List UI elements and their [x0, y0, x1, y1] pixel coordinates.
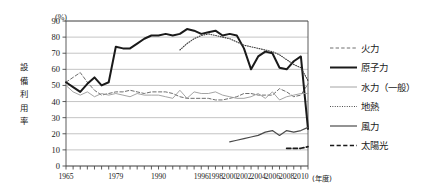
y-tick-label: 20 — [52, 129, 61, 139]
chart-legend: 火力原子力水力（一般）地熱風力太陽光 — [330, 43, 415, 152]
series-line-4 — [230, 127, 308, 142]
y-axis-title: 設備利用率 — [20, 62, 29, 126]
legend-label-2: 水力（一般） — [361, 82, 415, 93]
chart-container: 0102030405060708090 19651979199019961998… — [0, 0, 428, 193]
y-axis-title-char: 率 — [20, 116, 28, 126]
x-tick-label: 2000 — [222, 172, 237, 181]
x-tick-label: 1990 — [151, 172, 166, 181]
x-tick-label: 2010 — [293, 172, 308, 181]
x-tick-label: 2004 — [251, 172, 266, 181]
legend-label-4: 風力 — [361, 121, 379, 132]
y-axis-unit-label: (%) — [55, 13, 67, 22]
y-tick-label: 10 — [52, 145, 61, 155]
y-axis-tick-labels: 0102030405060708090 — [52, 16, 61, 171]
x-axis-unit-label: (年度) — [312, 174, 332, 183]
legend-label-5: 太陽光 — [361, 140, 388, 151]
y-axis-title-char: 利 — [20, 89, 28, 99]
x-tick-label: 2006 — [265, 172, 280, 181]
y-tick-label: 80 — [52, 32, 61, 42]
series-line-0 — [66, 73, 308, 100]
y-tick-label: 60 — [52, 64, 61, 74]
y-tick-label: 30 — [52, 113, 61, 123]
series-line-2 — [66, 85, 308, 100]
y-tick-label: 40 — [52, 97, 61, 107]
series-line-3 — [180, 34, 308, 81]
legend-label-1: 原子力 — [361, 62, 388, 73]
data-series-layer — [66, 29, 308, 148]
series-line-5 — [287, 147, 308, 149]
y-axis-title-char: 設 — [20, 62, 29, 72]
capacity-utilization-line-chart: 0102030405060708090 19651979199019961998… — [0, 0, 428, 193]
y-axis-ticks — [63, 21, 67, 166]
y-tick-label: 0 — [56, 161, 60, 171]
x-tick-label: 1965 — [58, 172, 73, 181]
legend-label-0: 火力 — [361, 43, 379, 54]
x-tick-label: 1996 — [194, 172, 209, 181]
x-tick-label: 2008 — [279, 172, 294, 181]
legend-label-3: 地熱 — [361, 101, 380, 112]
y-tick-label: 70 — [52, 48, 61, 58]
x-axis-tick-labels: 1965197919901996199820002002200420062008… — [58, 172, 308, 181]
x-axis-ticks — [66, 166, 308, 170]
y-axis-title-char: 用 — [20, 103, 28, 113]
y-axis-title-char: 備 — [20, 76, 28, 86]
x-tick-label: 1998 — [208, 172, 223, 181]
x-tick-label: 2002 — [236, 172, 251, 181]
y-tick-label: 50 — [52, 80, 61, 90]
x-tick-label: 1979 — [108, 172, 123, 181]
